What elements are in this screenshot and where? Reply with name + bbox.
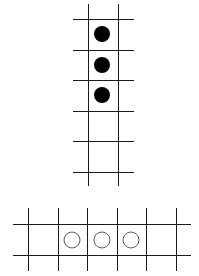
hollow-stone	[94, 232, 110, 248]
filled-stones	[94, 26, 110, 103]
hollow-stones	[64, 232, 139, 248]
filled-stone	[94, 57, 110, 73]
diagram-canvas	[0, 0, 199, 276]
hollow-stone	[123, 232, 139, 248]
filled-stone	[94, 87, 110, 103]
hollow-stone	[64, 232, 80, 248]
filled-stone	[94, 26, 110, 42]
